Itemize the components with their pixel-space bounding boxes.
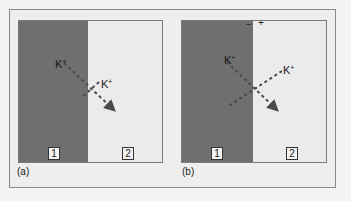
compartment-label-1: 1: [48, 147, 60, 160]
caption-b: (b): [182, 166, 194, 177]
negative-charge: −: [246, 20, 252, 30]
ion-k-left: K+: [224, 52, 235, 66]
ion-k-right: K+: [101, 76, 112, 90]
compartment-label-2: 2: [122, 147, 134, 160]
panel-b: − + 1 2 K+ K+: [181, 20, 327, 163]
positive-charge: +: [258, 20, 264, 28]
compartment-1: [19, 21, 90, 162]
compartment-2: [253, 21, 326, 162]
compartment-2: [88, 21, 162, 162]
ion-k-right: K+: [283, 62, 294, 76]
compartment-1: [182, 21, 255, 162]
compartment-label-1: 1: [211, 147, 223, 160]
ion-k-left: K+: [55, 56, 66, 70]
panel-a: 1 2 K+ K+: [18, 20, 163, 163]
compartment-label-2: 2: [286, 147, 298, 160]
caption-a: (a): [17, 166, 29, 177]
